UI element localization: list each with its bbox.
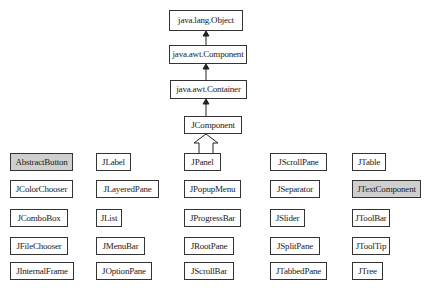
class-box-container: java.awt.Container xyxy=(170,80,247,99)
class-box-jseparator: JSeparator xyxy=(270,180,320,198)
class-box-jcombobox: JComboBox xyxy=(10,209,68,227)
class-box-jcomponent: JComponent xyxy=(184,116,242,134)
class-box-jscrollbar: JScrollBar xyxy=(184,262,234,280)
class-box-jtree: JTree xyxy=(352,262,383,280)
class-box-jpanel: JPanel xyxy=(184,153,221,171)
class-box-jpopupmenu: JPopupMenu xyxy=(184,180,241,198)
class-box-jtabbedpane: JTabbedPane xyxy=(270,262,327,280)
class-box-jscrollpane: JScrollPane xyxy=(270,153,327,171)
class-box-jprogressbar: JProgressBar xyxy=(184,209,241,227)
class-box-jfilechooser: JFileChooser xyxy=(10,237,68,255)
class-box-jtoolbar: JToolBar xyxy=(352,209,390,227)
class-box-jtextcomponent: JTextComponent xyxy=(352,180,421,198)
class-box-jlist: JList xyxy=(96,209,122,227)
class-box-jsplitpane: JSplitPane xyxy=(270,237,320,255)
class-box-object: java.lang.Object xyxy=(169,10,243,31)
class-box-jtable: JTable xyxy=(352,153,386,171)
class-hierarchy-diagram: java.lang.Object java.awt.Component java… xyxy=(0,0,432,292)
class-box-jinternalframe: JInternalFrame xyxy=(10,262,74,280)
class-box-jtooltip: JToolTip xyxy=(352,237,390,255)
class-box-jlayeredpane: JLayeredPane xyxy=(96,180,159,198)
class-box-jmenubar: JMenuBar xyxy=(96,237,145,255)
class-box-abstractbutton: AbstractButton xyxy=(10,153,73,171)
class-box-jcolorchooser: JColorChooser xyxy=(10,180,73,198)
class-box-component: java.awt.Component xyxy=(169,45,247,64)
class-box-jrootpane: JRootPane xyxy=(184,237,234,255)
class-box-jslider: JSlider xyxy=(270,209,305,227)
class-box-jlabel: JLabel xyxy=(96,153,131,171)
class-box-joptionpane: JOptionPane xyxy=(96,262,152,280)
